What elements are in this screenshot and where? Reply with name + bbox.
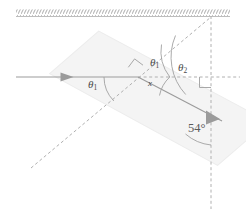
glass-slab — [50, 0, 246, 209]
theta2-subscript: 2 — [184, 66, 188, 75]
boundary-surface — [16, 10, 230, 17]
label-x: x — [148, 79, 152, 88]
diagram-canvas — [0, 0, 246, 223]
theta1-mid-subscript: 1 — [156, 61, 160, 70]
refraction-diagram: θ1 θ1 θ2 x 54° — [0, 0, 246, 223]
label-theta1-left: θ1 — [88, 79, 97, 92]
label-theta2: θ2 — [178, 62, 187, 75]
theta1-left-subscript: 1 — [94, 83, 98, 92]
theta2-symbol: θ — [178, 61, 183, 73]
label-theta1-mid: θ1 — [150, 57, 159, 70]
theta1-mid-symbol: θ — [150, 56, 155, 68]
label-54-degrees: 54° — [188, 122, 206, 135]
theta1-left-symbol: θ — [88, 78, 93, 90]
